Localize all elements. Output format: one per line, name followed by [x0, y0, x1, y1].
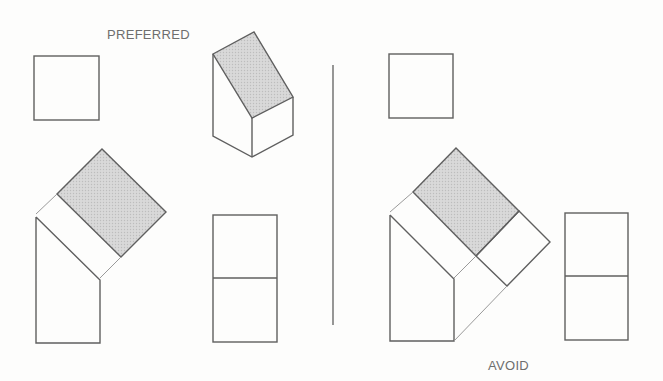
avoid-top-square	[389, 54, 453, 118]
preferred-bent-view	[36, 149, 166, 343]
preferred-front-view	[213, 215, 277, 342]
avoid-bent-view	[390, 148, 550, 341]
technical-drawing	[0, 0, 663, 381]
avoid-panel	[389, 54, 628, 341]
avoid-front-view	[565, 213, 628, 340]
isometric-prism	[213, 32, 293, 157]
preferred-panel	[34, 32, 293, 343]
preferred-top-square	[34, 56, 99, 120]
drawing-canvas: PREFERRED AVOID	[0, 0, 663, 381]
